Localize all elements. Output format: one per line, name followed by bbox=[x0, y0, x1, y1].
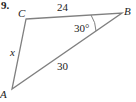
triangle-diagram: 9. C B A 24 30 x 30° bbox=[0, 0, 136, 102]
angle-b-label: 30° bbox=[74, 22, 89, 34]
side-ca-label: x bbox=[9, 46, 15, 58]
vertex-b-label: B bbox=[124, 5, 131, 17]
side-ab-label: 30 bbox=[57, 60, 69, 72]
angle-b-arc bbox=[91, 15, 96, 31]
problem-number: 9. bbox=[1, 0, 10, 11]
vertex-c-label: C bbox=[18, 7, 26, 19]
triangle-abc bbox=[12, 13, 122, 89]
side-cb-label: 24 bbox=[57, 1, 69, 13]
vertex-a-label: A bbox=[0, 88, 7, 100]
